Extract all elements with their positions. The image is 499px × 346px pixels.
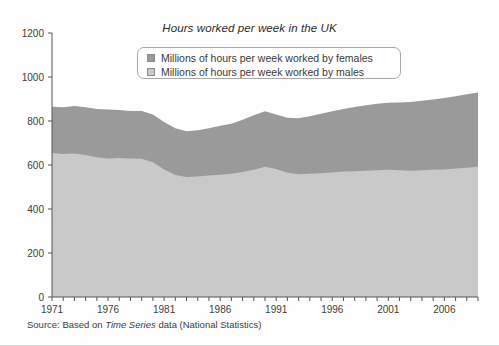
x-tick-label: 1991 <box>256 304 296 315</box>
y-tick-label: 600 <box>10 160 44 171</box>
x-tick-label: 1986 <box>200 304 240 315</box>
male-swatch-icon <box>147 68 155 76</box>
male-area-path <box>52 153 478 297</box>
x-tick-label: 2006 <box>424 304 464 315</box>
x-tick-label: 2001 <box>368 304 408 315</box>
female-swatch-icon <box>147 54 155 62</box>
y-tick-label: 1000 <box>10 72 44 83</box>
y-tick-label: 400 <box>10 204 44 215</box>
stacked-area-series <box>52 92 478 297</box>
y-axis-ticks <box>48 33 52 297</box>
legend-label-females: Millions of hours per week worked by fem… <box>161 52 373 64</box>
legend-label-males: Millions of hours per week worked by mal… <box>161 66 364 78</box>
chart-figure: Hours worked per week in the UK 02004006… <box>0 0 499 346</box>
x-axis-ticks <box>52 297 478 301</box>
legend-item-males: Millions of hours per week worked by mal… <box>147 65 400 78</box>
x-tick-label: 1996 <box>312 304 352 315</box>
y-tick-label: 200 <box>10 248 44 259</box>
y-tick-label: 0 <box>10 292 44 303</box>
chart-legend: Millions of hours per week worked by fem… <box>137 47 401 79</box>
source-suffix: data (National Statistics) <box>156 319 262 330</box>
source-note: Source: Based on Time Series data (Natio… <box>27 319 261 330</box>
source-italic: Time Series <box>105 319 156 330</box>
x-tick-label: 1971 <box>32 304 72 315</box>
y-tick-label: 800 <box>10 116 44 127</box>
x-tick-label: 1981 <box>144 304 184 315</box>
y-tick-label: 1200 <box>10 28 44 39</box>
source-prefix: Source: Based on <box>27 319 105 330</box>
x-tick-label: 1976 <box>88 304 128 315</box>
legend-item-females: Millions of hours per week worked by fem… <box>147 51 400 64</box>
